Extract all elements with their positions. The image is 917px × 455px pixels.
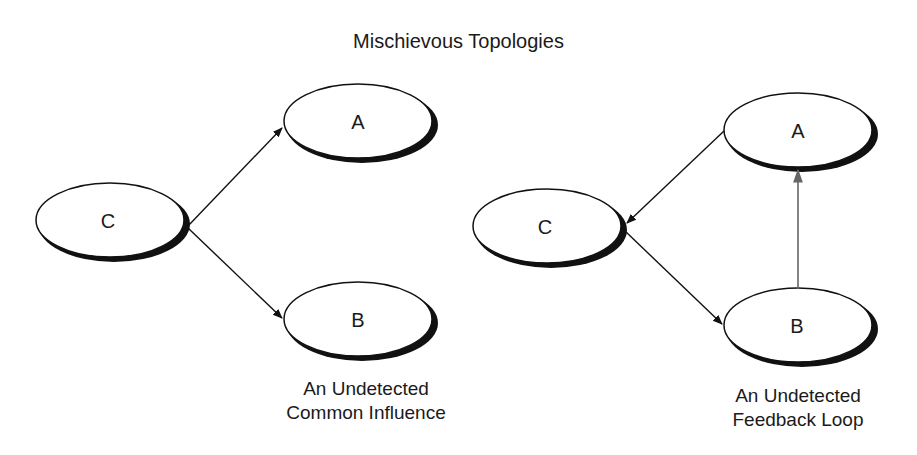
node-b: B	[284, 282, 438, 361]
edge-c-to-a	[188, 128, 282, 226]
common-influence-diagram: C A B	[36, 84, 438, 361]
svg-text:A: A	[351, 111, 365, 133]
node-b: B	[724, 288, 878, 367]
edge-c-to-b	[188, 228, 282, 318]
feedback-loop-diagram: A C B	[473, 93, 878, 367]
node-c: C	[36, 183, 190, 262]
edge-c-to-b	[625, 231, 722, 324]
caption-line-1: An Undetected	[688, 384, 908, 408]
caption-line-2: Feedback Loop	[688, 408, 908, 432]
caption-common-influence: An Undetected Common Influence	[256, 377, 476, 425]
svg-text:C: C	[101, 210, 115, 232]
svg-text:C: C	[538, 216, 552, 238]
caption-line-1: An Undetected	[256, 377, 476, 401]
edge-a-to-c	[627, 131, 724, 223]
caption-line-2: Common Influence	[256, 401, 476, 425]
node-a: A	[284, 84, 438, 163]
node-c: C	[473, 189, 627, 268]
svg-text:A: A	[791, 120, 805, 142]
node-a: A	[724, 93, 878, 172]
caption-feedback-loop: An Undetected Feedback Loop	[688, 384, 908, 432]
svg-text:B: B	[790, 315, 803, 337]
svg-text:B: B	[351, 309, 364, 331]
